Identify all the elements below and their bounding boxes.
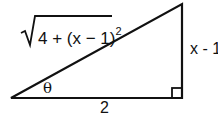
vertical-side-label: x - 1 [190, 40, 218, 58]
hypotenuse-label: 4 + (x − 1)2 [38, 27, 122, 49]
base-label: 2 [100, 99, 109, 117]
angle-label: θ [43, 79, 52, 97]
triangle-shape [0, 0, 218, 119]
right-angle-marker-icon [172, 88, 182, 98]
triangle-diagram: 4 + (x − 1)2 x - 1 2 θ [0, 0, 218, 119]
